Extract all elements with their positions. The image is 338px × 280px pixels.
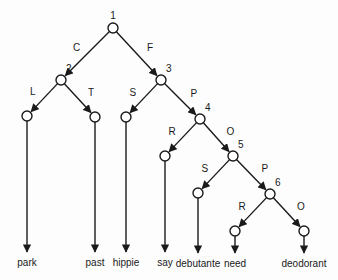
node-l_say [160, 151, 170, 161]
node-number: 5 [238, 139, 244, 150]
leaf-word: need [224, 258, 246, 269]
node-number: 4 [205, 102, 211, 113]
node-4 [195, 114, 205, 124]
node-l_past [90, 112, 100, 122]
edge-4-5 [203, 123, 229, 152]
node-2 [56, 75, 66, 85]
node-5 [228, 151, 238, 161]
edge-label: R [169, 126, 176, 137]
node-l_hippie [121, 112, 131, 122]
node-number: 1 [110, 10, 116, 21]
edge-label: O [297, 201, 305, 212]
edge-label: F [147, 42, 153, 53]
leaf-word: deodorant [281, 258, 326, 269]
node-l_debutante [193, 188, 203, 198]
node-6 [265, 189, 275, 199]
tree-svg: CFLTSPROSPROparkpasthippiesaydebutantene… [0, 0, 338, 280]
node-number: 2 [66, 63, 72, 74]
edge-1-2 [65, 32, 109, 76]
node-l_park [22, 111, 32, 121]
leaf-word: say [157, 257, 173, 268]
decision-tree-diagram: CFLTSPROSPROparkpasthippiesaydebutantene… [0, 0, 338, 280]
leaf-word: hippie [113, 257, 140, 268]
node-1 [108, 23, 118, 33]
labels: CFLTSPROSPROparkpasthippiesaydebutantene… [17, 10, 326, 269]
leaf-word: past [86, 257, 105, 268]
edge-label: S [202, 163, 209, 174]
node-l_need [230, 226, 240, 236]
edge-label: S [130, 87, 137, 98]
edge-label: P [262, 163, 269, 174]
edge-label: T [88, 87, 94, 98]
node-number: 6 [275, 177, 281, 188]
leaf-word: debutante [176, 258, 221, 269]
node-l_deodorant [299, 226, 309, 236]
edge-2-l_past [64, 84, 91, 113]
edge-label: P [191, 88, 198, 99]
edge-label: L [30, 86, 36, 97]
node-number: 3 [166, 63, 172, 74]
node-3 [156, 75, 166, 85]
edge-label: R [239, 201, 246, 212]
edge-6-l_deodorant [273, 198, 300, 227]
edge-1-3 [116, 32, 157, 76]
leaf-word: park [17, 257, 37, 268]
edge-label: O [227, 126, 235, 137]
edge-label: C [73, 42, 80, 53]
